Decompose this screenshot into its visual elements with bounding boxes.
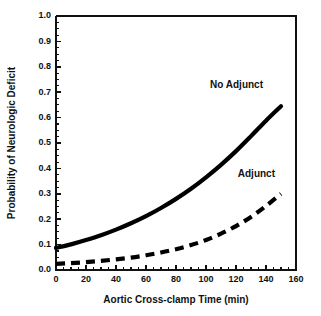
series-label-no-adjunct: No Adjunct: [210, 79, 264, 90]
y-tick-label: 0.0: [38, 264, 51, 274]
y-tick-label: 0.6: [38, 112, 51, 122]
y-tick-label: 0.5: [38, 137, 51, 147]
x-axis-title: Aortic Cross-clamp Time (min): [103, 294, 248, 305]
chart-figure: 0.00.10.20.30.40.50.60.70.80.91.0 020406…: [0, 0, 321, 316]
x-tick-label: 40: [111, 274, 121, 284]
y-tick-label: 0.7: [38, 87, 51, 97]
x-tick-label: 160: [288, 274, 303, 284]
axis-frame: [56, 16, 296, 270]
x-tick-label: 120: [228, 274, 243, 284]
y-tick-label: 0.4: [38, 163, 51, 173]
x-axis-tick-labels: 020406080100120140160: [53, 274, 303, 284]
y-tick-label: 0.3: [38, 188, 51, 198]
y-axis-tick-labels: 0.00.10.20.30.40.50.60.70.80.91.0: [38, 10, 51, 274]
x-tick-label: 140: [258, 274, 273, 284]
x-tick-label: 100: [198, 274, 213, 284]
y-tick-label: 1.0: [38, 10, 51, 20]
x-tick-label: 60: [141, 274, 151, 284]
x-tick-label: 80: [171, 274, 181, 284]
series-label-adjunct: Adjunct: [238, 168, 276, 179]
y-axis-ticks: [56, 16, 61, 270]
series-group: [56, 106, 281, 264]
y-tick-label: 0.2: [38, 214, 51, 224]
x-tick-label: 0: [53, 274, 58, 284]
y-tick-label: 0.8: [38, 61, 51, 71]
y-tick-label: 0.9: [38, 36, 51, 46]
y-tick-label: 0.1: [38, 239, 51, 249]
chart-plot-area: 0.00.10.20.30.40.50.60.70.80.91.0 020406…: [0, 0, 321, 316]
x-tick-label: 20: [81, 274, 91, 284]
y-axis-title: Probability of Neurologic Deficit: [6, 66, 17, 219]
